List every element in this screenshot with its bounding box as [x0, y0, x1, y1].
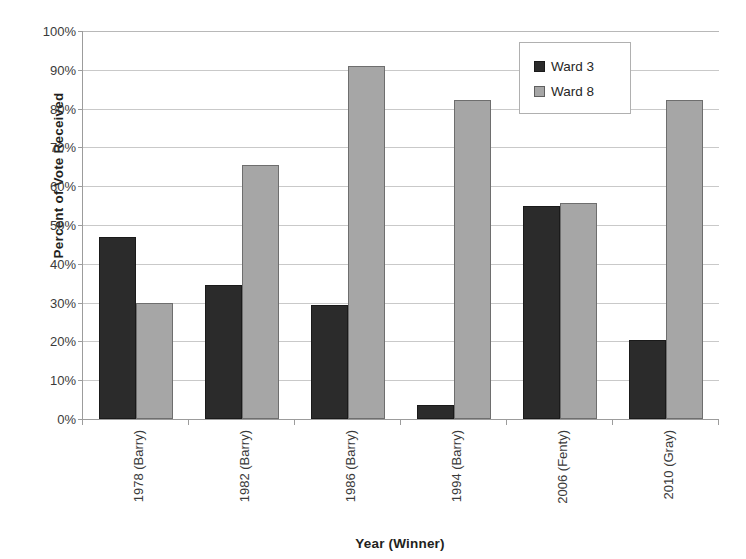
y-axis-tick-mark: [78, 147, 83, 148]
x-axis-tick-mark: [718, 419, 719, 425]
bar-ward-8: [454, 100, 491, 419]
legend-swatch-icon-ward-8: [534, 86, 545, 97]
chart-legend: Ward 3 Ward 8: [519, 42, 631, 114]
y-axis-tick-mark: [78, 380, 83, 381]
gridline: [83, 264, 719, 265]
bar-group: [205, 31, 279, 419]
y-axis-tick-mark: [78, 303, 83, 304]
x-axis-tick-mark: [294, 419, 295, 425]
gridline: [83, 303, 719, 304]
bar-ward-8: [136, 303, 173, 419]
y-axis-tick-label: 0%: [57, 412, 76, 427]
x-axis-tick-label: 1994 (Barry): [449, 430, 464, 550]
gridline: [83, 380, 719, 381]
y-axis-tick-label: 80%: [50, 101, 76, 116]
y-axis-tick-label: 100%: [43, 24, 76, 39]
y-axis-tick-mark: [78, 70, 83, 71]
y-axis-tick-mark: [78, 31, 83, 32]
x-axis-tick-label: 2006 (Fenty): [555, 430, 570, 550]
legend-swatch-icon-ward-3: [534, 61, 545, 72]
x-axis-tick-mark: [400, 419, 401, 425]
legend-item-ward-8: Ward 8: [534, 79, 630, 104]
legend-label-ward-8: Ward 8: [551, 84, 594, 99]
bar-ward-3: [311, 305, 348, 419]
x-axis-tick-mark: [506, 419, 507, 425]
bar-group: [311, 31, 385, 419]
x-axis-tick-mark: [612, 419, 613, 425]
bar-ward-3: [205, 285, 242, 419]
bar-ward-8: [560, 203, 597, 420]
bar-ward-8: [242, 165, 279, 419]
x-axis-tick-mark: [188, 419, 189, 425]
bar-ward-3: [523, 206, 560, 419]
y-axis-tick-label: 40%: [50, 256, 76, 271]
bar-group: [417, 31, 491, 419]
legend-item-ward-3: Ward 3: [534, 54, 630, 79]
y-axis-tick-label: 50%: [50, 218, 76, 233]
gridline: [83, 186, 719, 187]
y-axis-tick-mark: [78, 186, 83, 187]
y-axis-tick-label: 20%: [50, 334, 76, 349]
gridline: [83, 147, 719, 148]
y-axis-tick-label: 60%: [50, 179, 76, 194]
y-axis-tick-label: 90%: [50, 62, 76, 77]
gridline: [83, 341, 719, 342]
y-axis-tick-mark: [78, 341, 83, 342]
y-axis-tick-mark: [78, 109, 83, 110]
x-axis-tick-label: 1978 (Barry): [131, 430, 146, 550]
bar-ward-3: [99, 237, 136, 419]
y-axis-tick-mark: [78, 264, 83, 265]
y-axis-tick-mark: [78, 225, 83, 226]
bar-ward-3: [417, 405, 454, 419]
bar-group: [99, 31, 173, 419]
gridline: [83, 31, 719, 32]
x-axis-title: Year (Winner): [82, 536, 718, 551]
y-axis-tick-label: 30%: [50, 295, 76, 310]
y-axis-tick-label: 10%: [50, 373, 76, 388]
y-axis-tick-label: 70%: [50, 140, 76, 155]
x-axis-tick-label: 1986 (Barry): [343, 430, 358, 550]
bar-ward-8: [348, 66, 385, 419]
x-axis-tick-label: 1982 (Barry): [237, 430, 252, 550]
legend-label-ward-3: Ward 3: [551, 59, 594, 74]
bar-ward-8: [666, 100, 703, 419]
gridline: [83, 225, 719, 226]
bar-chart: Percent of Vote Received 0%10%20%30%40%5…: [0, 0, 746, 559]
x-axis-tick-mark: [82, 419, 83, 425]
bar-group: [629, 31, 703, 419]
bar-ward-3: [629, 340, 666, 419]
x-axis-tick-label: 2010 (Gray): [661, 430, 676, 550]
